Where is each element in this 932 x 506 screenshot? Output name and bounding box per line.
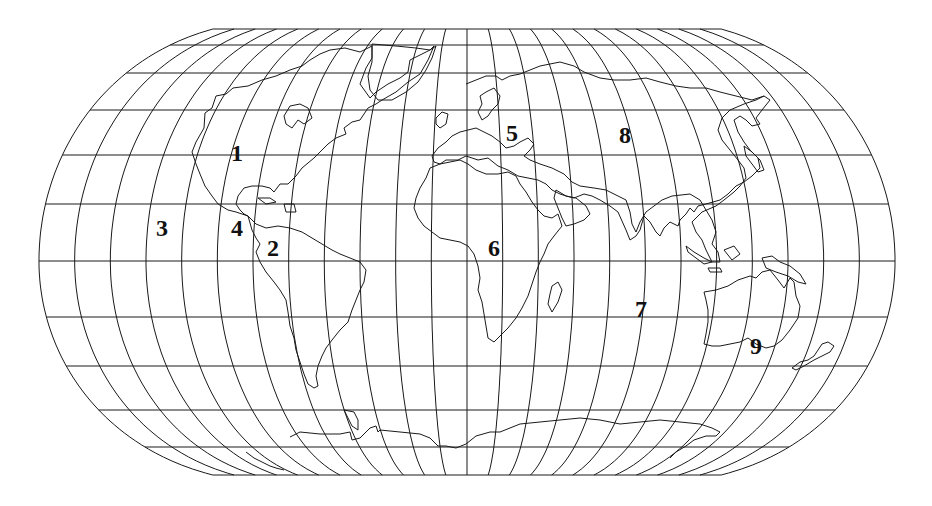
- meridian-line: [431, 29, 446, 475]
- meridian-line: [75, 29, 234, 475]
- meridian-line: [39, 29, 213, 475]
- eurasia-outline: [432, 96, 770, 262]
- meridian-line: [658, 29, 788, 475]
- meridian-line: [594, 29, 681, 475]
- region-label-9: 9: [750, 333, 762, 359]
- meridian-line: [146, 29, 276, 475]
- meridian-line: [552, 29, 610, 475]
- graticule: [39, 29, 895, 475]
- region-label-4: 4: [231, 215, 243, 241]
- northern-eurasia-coast: [466, 62, 764, 100]
- region-label-1: 1: [231, 140, 243, 166]
- region-label-2: 2: [267, 235, 279, 261]
- meridian-line: [182, 29, 298, 475]
- antarctic-peninsula-outline: [344, 410, 358, 430]
- japan-outline: [744, 146, 764, 172]
- world-map: 123456789: [0, 0, 932, 506]
- madagascar-outline: [548, 282, 562, 312]
- region-labels: 123456789: [156, 120, 762, 359]
- region-label-7: 7: [635, 296, 647, 322]
- british-isles-outline: [436, 112, 448, 128]
- meridian-line: [289, 29, 361, 475]
- meridian-line: [700, 29, 859, 475]
- region-label-8: 8: [619, 122, 631, 148]
- meridian-line: [615, 29, 716, 475]
- indonesia-outline: [686, 246, 740, 272]
- region-label-6: 6: [488, 235, 500, 261]
- meridian-line: [509, 29, 538, 475]
- meridian-line: [324, 29, 382, 475]
- meridian-line: [360, 29, 404, 475]
- antarctica-edge-west: [246, 452, 284, 470]
- caribbean-islands-outline: [258, 198, 296, 212]
- region-label-3: 3: [156, 215, 168, 241]
- meridian-line: [721, 29, 895, 475]
- region-label-5: 5: [506, 120, 518, 146]
- meridian-line: [531, 29, 575, 475]
- antarctica-outline: [290, 418, 720, 458]
